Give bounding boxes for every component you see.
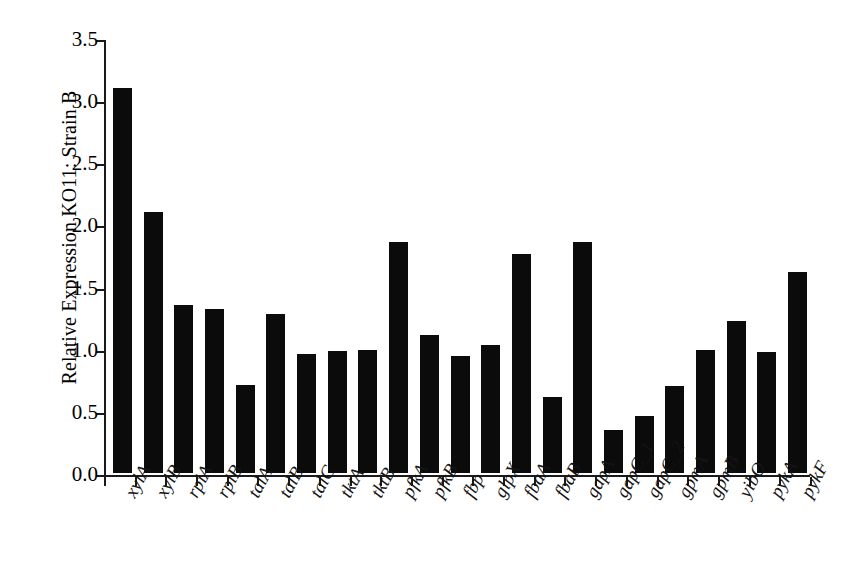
y-axis-tick-label: 3.5	[46, 27, 98, 52]
bar	[512, 254, 531, 473]
bar	[451, 356, 470, 473]
y-axis-tick-label: 2.5	[46, 151, 98, 176]
bar	[389, 242, 408, 473]
bar	[573, 242, 592, 473]
bar	[266, 314, 285, 473]
bar	[174, 305, 193, 473]
bar	[420, 335, 439, 473]
bar	[788, 272, 807, 473]
y-axis-tick-label: 0.5	[46, 400, 98, 425]
bar	[543, 397, 562, 473]
bar	[727, 321, 746, 473]
y-axis-tick-label: 2.0	[46, 213, 98, 238]
y-axis-tick-label: 1.5	[46, 276, 98, 301]
bar	[481, 345, 500, 473]
bar	[328, 351, 347, 473]
y-axis-line	[104, 40, 106, 476]
bar-chart-figure: Relative Expression KO11: Strain B 0.00.…	[0, 0, 841, 583]
y-axis-tick-label: 0.0	[46, 462, 98, 487]
bar	[236, 385, 255, 473]
x-axis-tick-labels: xylAxylBrpiArpiBtalAtalBtalCtktAtktBpfkA…	[104, 489, 810, 583]
x-axis-tick	[104, 477, 106, 486]
bar	[144, 212, 163, 473]
bar	[757, 352, 776, 473]
bar	[113, 88, 132, 473]
y-axis-tick-label: 1.0	[46, 338, 98, 363]
plot-area: 0.00.51.01.52.02.53.03.5	[104, 40, 810, 475]
y-axis-tick-label: 3.0	[46, 89, 98, 114]
bar	[297, 354, 316, 473]
bar	[358, 350, 377, 473]
bar	[205, 309, 224, 473]
